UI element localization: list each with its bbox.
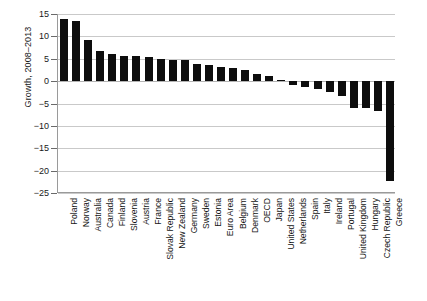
- x-axis-tick-label: Euro Area: [225, 195, 236, 299]
- x-axis-tick-label: Slovak Republic: [165, 195, 176, 299]
- y-axis-tick-label: 5: [44, 54, 49, 64]
- x-axis-tick-label-slot: Greece: [394, 195, 405, 299]
- x-axis-tick-label: Italy: [322, 195, 333, 299]
- y-axis-tick-label: 10: [39, 31, 49, 41]
- x-axis-tick-label-slot: Australia: [93, 195, 104, 299]
- x-axis-tick-label: Denmark: [250, 195, 261, 299]
- x-axis-tick-label-slot: Spain: [310, 195, 321, 299]
- x-axis-tick-label: Estonia: [213, 195, 224, 299]
- bar: [108, 54, 116, 81]
- x-axis-tick-label: Sweden: [201, 195, 212, 299]
- y-axis-tick-label: −15: [34, 143, 49, 153]
- gridline: [58, 193, 395, 194]
- x-axis-tick-labels: PolandNorwayAustraliaCanadaFinlandSloven…: [57, 195, 395, 299]
- y-axis-tick: [51, 148, 57, 149]
- bar: [301, 81, 309, 87]
- bar: [181, 60, 189, 81]
- y-axis-tick: [51, 81, 57, 82]
- x-axis-tick-label: Spain: [310, 195, 321, 299]
- x-axis-tick-label: Netherlands: [298, 195, 309, 299]
- x-axis-tick-label-slot: Slovenia: [129, 195, 140, 299]
- x-axis-tick-label: Poland: [69, 195, 80, 299]
- y-axis-tick-label: −10: [34, 121, 49, 131]
- x-axis-tick-label: Japan: [274, 195, 285, 299]
- chart-figure: Growth, 2008–2013 151050−5−10−15−20−25 P…: [0, 0, 427, 301]
- x-axis-tick-label-slot: New Zealand: [177, 195, 188, 299]
- y-axis-tick: [51, 171, 57, 172]
- x-axis-tick-label: United Kingdom: [358, 195, 369, 299]
- bar: [96, 51, 104, 81]
- y-axis-tick: [51, 14, 57, 15]
- x-axis-tick-label: Hungary: [370, 195, 381, 299]
- x-axis-tick-label-slot: Germany: [189, 195, 200, 299]
- x-axis-tick-label-slot: Euro Area: [225, 195, 236, 299]
- x-axis-tick-label: Finland: [117, 195, 128, 299]
- bar: [338, 81, 346, 96]
- bar: [314, 81, 322, 89]
- bar-series: [58, 14, 395, 192]
- x-axis-tick-label: Slovenia: [129, 195, 140, 299]
- bar: [289, 81, 297, 85]
- y-axis-title: Growth, 2008–2013: [23, 0, 33, 142]
- y-axis-tick: [51, 104, 57, 105]
- bar: [217, 67, 225, 81]
- bar: [157, 59, 165, 81]
- x-axis-tick-label-slot: Ireland: [334, 195, 345, 299]
- bar: [60, 19, 68, 81]
- y-axis-tick: [51, 126, 57, 127]
- y-axis-tick-label: 15: [39, 9, 49, 19]
- bar: [350, 81, 358, 108]
- bar: [241, 70, 249, 81]
- bar: [145, 57, 153, 81]
- plot-area: 151050−5−10−15−20−25: [57, 14, 395, 193]
- y-axis-tick-label: −5: [39, 99, 49, 109]
- x-axis-tick-label: France: [153, 195, 164, 299]
- y-axis-tick: [51, 36, 57, 37]
- x-axis-tick-label-slot: United States: [286, 195, 297, 299]
- x-axis-tick-label: Ireland: [334, 195, 345, 299]
- x-axis-tick-label-slot: Finland: [117, 195, 128, 299]
- x-axis-tick-label: OECD: [262, 195, 273, 299]
- bar: [374, 81, 382, 111]
- bar: [193, 64, 201, 81]
- x-axis-tick-label-slot: Slovak Republic: [165, 195, 176, 299]
- bar: [169, 60, 177, 81]
- x-axis-tick-label: Canada: [105, 195, 116, 299]
- y-axis-tick-label: −25: [34, 188, 49, 198]
- x-axis-tick-label: Greece: [394, 195, 405, 299]
- x-axis-tick-label-slot: Denmark: [250, 195, 261, 299]
- x-axis-tick-label-slot: Netherlands: [298, 195, 309, 299]
- bar: [205, 65, 213, 81]
- x-axis-tick-label: United States: [286, 195, 297, 299]
- x-axis-tick-label: Portugal: [346, 195, 357, 299]
- y-axis-tick: [51, 59, 57, 60]
- y-axis-tick: [51, 193, 57, 194]
- x-axis-tick-label-slot: Estonia: [213, 195, 224, 299]
- x-axis-tick-label-slot: United Kingdom: [358, 195, 369, 299]
- x-axis-tick-label: New Zealand: [177, 195, 188, 299]
- x-axis-tick-label-slot: Hungary: [370, 195, 381, 299]
- x-axis-tick-label: Belgium: [238, 195, 249, 299]
- bar: [253, 74, 261, 81]
- x-axis-tick-label-slot: Czech Republic: [382, 195, 393, 299]
- bar: [326, 81, 334, 92]
- x-axis-tick-label-slot: OECD: [262, 195, 273, 299]
- x-axis-tick-label: Austria: [141, 195, 152, 299]
- bar: [229, 68, 237, 81]
- x-axis-tick-label-slot: Sweden: [201, 195, 212, 299]
- y-axis-tick-label: −20: [34, 166, 49, 176]
- x-axis-tick-label: Norway: [81, 195, 92, 299]
- bar: [362, 81, 370, 108]
- x-axis-tick-label-slot: Canada: [105, 195, 116, 299]
- bar: [265, 76, 273, 81]
- x-axis-tick-label-slot: Italy: [322, 195, 333, 299]
- x-axis-tick-label: Germany: [189, 195, 200, 299]
- bar: [72, 21, 80, 81]
- x-axis-tick-label: Australia: [93, 195, 104, 299]
- y-axis-tick-label: 0: [44, 76, 49, 86]
- x-axis-tick-label: Czech Republic: [382, 195, 393, 299]
- bar: [277, 80, 285, 81]
- bar: [120, 56, 128, 81]
- x-axis-tick-label-slot: Belgium: [238, 195, 249, 299]
- x-axis-tick-label-slot: Poland: [69, 195, 80, 299]
